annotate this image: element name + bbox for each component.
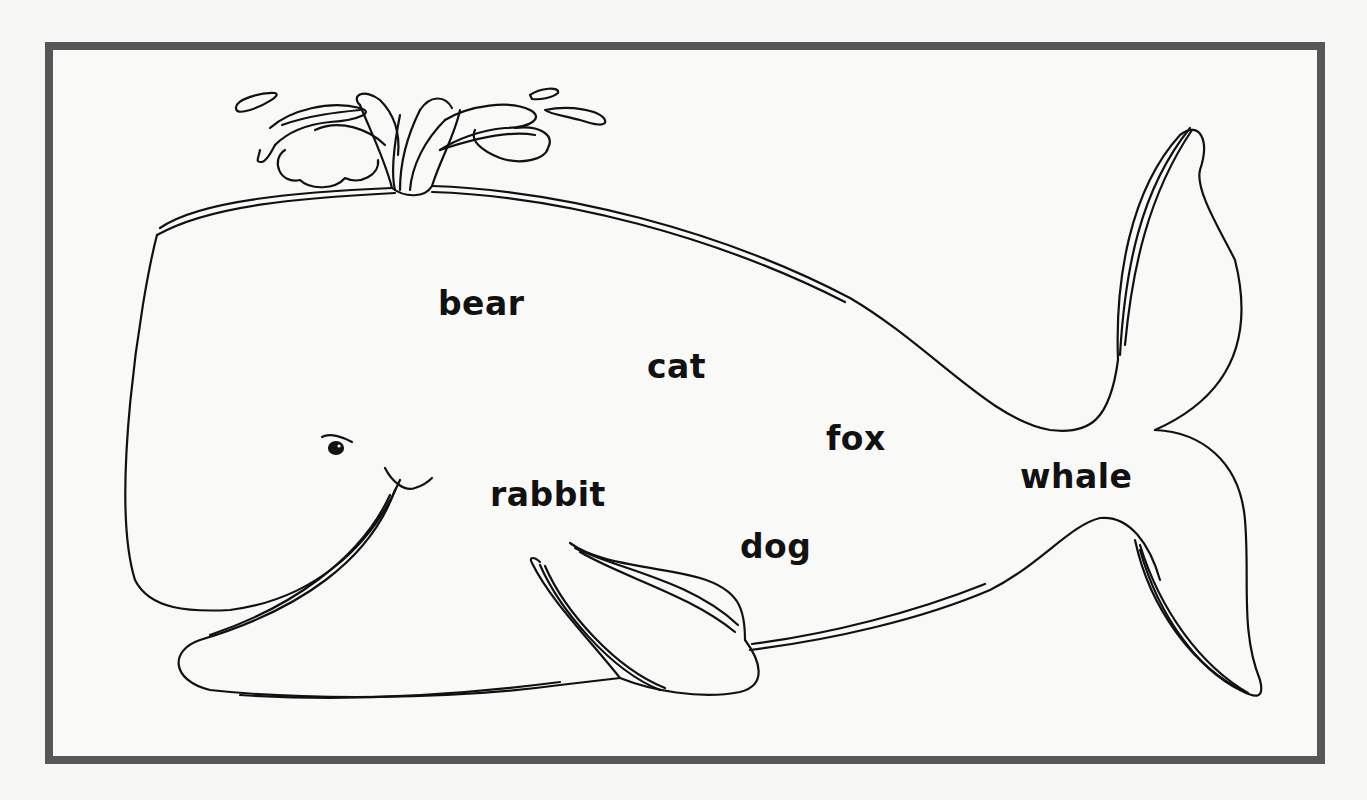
whale-illustration bbox=[0, 0, 1367, 800]
whale-body-outline bbox=[125, 186, 1160, 698]
tail-flukes bbox=[1118, 128, 1262, 696]
whale-eye bbox=[322, 435, 352, 454]
whale-mouth bbox=[385, 468, 432, 489]
word-bear[interactable]: bear bbox=[438, 287, 525, 320]
water-spout bbox=[236, 89, 605, 196]
word-fox[interactable]: fox bbox=[826, 422, 886, 455]
pectoral-fins bbox=[531, 543, 759, 695]
word-rabbit[interactable]: rabbit bbox=[490, 478, 606, 511]
word-cat[interactable]: cat bbox=[647, 350, 706, 383]
word-whale[interactable]: whale bbox=[1020, 460, 1132, 493]
word-dog[interactable]: dog bbox=[740, 530, 811, 563]
